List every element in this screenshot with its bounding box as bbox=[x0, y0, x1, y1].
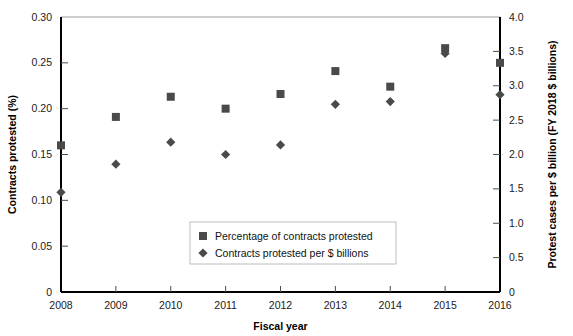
y-axis-left-tick-label: 0 bbox=[46, 286, 52, 298]
data-point-square bbox=[112, 113, 120, 121]
data-point-diamond bbox=[221, 150, 230, 159]
x-axis-tick-label: 2008 bbox=[49, 299, 73, 311]
x-axis-tick-label: 2015 bbox=[433, 299, 457, 311]
x-axis-title: Fiscal year bbox=[253, 320, 307, 332]
y-axis-right-tick-label: 2.0 bbox=[509, 148, 524, 160]
x-axis-tick-label: 2010 bbox=[159, 299, 183, 311]
data-point-square bbox=[496, 59, 504, 67]
y-axis-right-tick-label: 2.5 bbox=[509, 114, 524, 126]
y-axis-right-title: Protest cases per $ billion (FY 2018 $ b… bbox=[546, 41, 558, 269]
x-axis-tick-label: 2011 bbox=[214, 299, 237, 311]
legend-marker-square bbox=[199, 232, 207, 240]
data-point-square bbox=[386, 83, 394, 91]
x-axis-tick-label: 2013 bbox=[324, 299, 348, 311]
y-axis-left-tick-label: 0.20 bbox=[32, 102, 53, 114]
data-point-diamond bbox=[495, 90, 504, 99]
y-axis-right-tick-label: 1.5 bbox=[509, 182, 524, 194]
y-axis-right-tick-label: 1.0 bbox=[509, 217, 524, 229]
legend-label: Contracts protested per $ billions bbox=[215, 247, 369, 259]
y-axis-right-tick-label: 0.5 bbox=[509, 251, 524, 263]
y-axis-left-tick-label: 0.25 bbox=[32, 56, 53, 68]
scatter-chart: 00.050.100.150.200.250.3000.51.01.52.02.… bbox=[0, 0, 573, 336]
data-point-square bbox=[331, 67, 339, 75]
data-point-square bbox=[277, 90, 285, 98]
data-point-square bbox=[167, 93, 175, 101]
data-point-diamond bbox=[111, 160, 120, 169]
x-axis-tick-label: 2012 bbox=[269, 299, 293, 311]
y-axis-left-title: Contracts protested (%) bbox=[6, 95, 18, 214]
y-axis-left-tick-label: 0.10 bbox=[32, 194, 53, 206]
data-point-diamond bbox=[331, 100, 340, 109]
y-axis-right-tick-label: 0 bbox=[509, 286, 515, 298]
y-axis-right-tick-label: 3.0 bbox=[509, 79, 524, 91]
y-axis-right-tick-label: 4.0 bbox=[509, 11, 524, 23]
data-point-diamond bbox=[166, 138, 175, 147]
x-axis-tick-label: 2014 bbox=[379, 299, 403, 311]
y-axis-left-tick-label: 0.05 bbox=[32, 240, 53, 252]
y-axis-right-tick-label: 3.5 bbox=[509, 45, 524, 57]
data-point-square bbox=[57, 141, 65, 149]
data-point-diamond bbox=[386, 97, 395, 106]
data-point-square bbox=[222, 105, 230, 113]
chart-container: 00.050.100.150.200.250.3000.51.01.52.02.… bbox=[0, 0, 573, 336]
data-point-diamond bbox=[276, 140, 285, 149]
data-point-diamond bbox=[56, 188, 65, 197]
y-axis-left-tick-label: 0.30 bbox=[32, 11, 53, 23]
x-axis-tick-label: 2016 bbox=[488, 299, 512, 311]
legend-label: Percentage of contracts protested bbox=[215, 230, 373, 242]
y-axis-left-tick-label: 0.15 bbox=[32, 148, 53, 160]
x-axis-tick-label: 2009 bbox=[104, 299, 128, 311]
